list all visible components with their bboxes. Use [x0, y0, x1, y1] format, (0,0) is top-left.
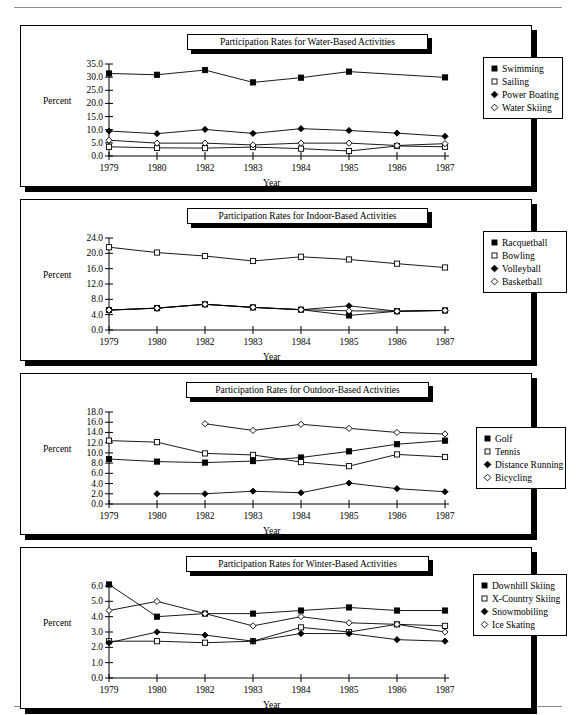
y-tick-label: 24.0: [63, 233, 103, 243]
chart-panel-winter[interactable]: Participation Rates for Winter-Based Act…: [20, 547, 532, 709]
data-point-bicycling: [394, 429, 400, 435]
data-point-x-country-skiing: [442, 623, 447, 628]
data-point-bowling: [250, 258, 255, 263]
data-point-distance-running: [298, 490, 304, 496]
x-tick-label: 1980: [139, 163, 175, 173]
data-point-ice-skating: [298, 614, 304, 620]
y-tick-label: 15.0: [63, 112, 103, 122]
x-tick-label: 1980: [139, 685, 175, 695]
data-point-downhill-skiing: [154, 614, 159, 619]
x-tick-label: 1979: [91, 337, 127, 347]
data-point-tennis: [298, 459, 303, 464]
x-tick-label: 1983: [235, 163, 271, 173]
x-tick-label: 1987: [427, 685, 463, 695]
data-point-distance-running: [394, 486, 400, 492]
data-point-power-boating: [250, 130, 256, 136]
x-tick-label: 1979: [91, 685, 127, 695]
y-tick-label: 4.0: [63, 310, 103, 320]
y-tick-label: 20.0: [63, 248, 103, 258]
x-tick-label: 1982: [187, 685, 223, 695]
data-point-tennis: [394, 452, 399, 457]
x-tick-label: 1986: [379, 163, 415, 173]
data-point-snowmobiling: [154, 629, 160, 635]
y-tick-label: 0.0: [63, 151, 103, 161]
y-axis-title: Percent: [43, 96, 72, 106]
x-axis-title: Year: [263, 352, 281, 362]
y-tick-label: 18.0: [63, 407, 103, 417]
data-point-swimming: [298, 75, 303, 80]
data-point-power-boating: [442, 133, 448, 139]
data-point-downhill-skiing: [442, 608, 447, 613]
chart-panel-outdoor[interactable]: Participation Rates for Outdoor-Based Ac…: [20, 373, 532, 535]
data-point-bicycling: [250, 427, 256, 433]
data-point-bicycling: [442, 431, 448, 437]
data-point-snowmobiling: [202, 632, 208, 638]
data-point-power-boating: [394, 130, 400, 136]
data-point-distance-running: [250, 488, 256, 494]
data-point-sailing: [346, 148, 351, 153]
x-tick-label: 1984: [283, 685, 319, 695]
data-point-tennis: [442, 454, 447, 459]
data-point-golf: [250, 458, 255, 463]
data-point-distance-running: [202, 491, 208, 497]
data-point-snowmobiling: [442, 638, 448, 644]
x-tick-label: 1987: [427, 163, 463, 173]
data-point-snowmobiling: [394, 637, 400, 643]
data-point-bowling: [106, 245, 111, 250]
data-point-bicycling: [346, 425, 352, 431]
data-point-tennis: [202, 451, 207, 456]
y-tick-label: 4.0: [63, 479, 103, 489]
x-axis-title: Year: [263, 700, 281, 710]
x-tick-label: 1987: [427, 511, 463, 521]
data-point-x-country-skiing: [202, 640, 207, 645]
y-tick-label: 8.0: [63, 294, 103, 304]
data-point-golf: [154, 459, 159, 464]
x-axis-title: Year: [263, 526, 281, 536]
y-axis-title: Percent: [43, 270, 72, 280]
chart-panel-water[interactable]: Participation Rates for Water-Based Acti…: [20, 25, 532, 187]
x-tick-label: 1986: [379, 511, 415, 521]
y-tick-label: 0.0: [63, 673, 103, 683]
x-tick-label: 1982: [187, 337, 223, 347]
y-tick-label: 14.0: [63, 427, 103, 437]
data-point-distance-running: [154, 491, 160, 497]
data-point-golf: [106, 456, 111, 461]
y-tick-label: 3.0: [63, 627, 103, 637]
data-point-swimming: [442, 75, 447, 80]
chart-panel-indoor[interactable]: Participation Rates for Indoor-Based Act…: [20, 199, 532, 361]
x-tick-label: 1985: [331, 163, 367, 173]
x-tick-label: 1982: [187, 163, 223, 173]
data-point-ice-skating: [250, 623, 256, 629]
data-point-bowling: [346, 257, 351, 262]
data-point-bowling: [394, 261, 399, 266]
y-tick-label: 25.0: [63, 85, 103, 95]
x-tick-label: 1986: [379, 685, 415, 695]
data-point-bowling: [298, 254, 303, 259]
y-tick-label: 0.0: [63, 325, 103, 335]
data-point-power-boating: [346, 127, 352, 133]
data-point-x-country-skiing: [298, 625, 303, 630]
data-point-power-boating: [106, 128, 112, 134]
y-tick-label: 8.0: [63, 458, 103, 468]
data-point-tennis: [346, 464, 351, 469]
data-point-bowling: [154, 250, 159, 255]
data-point-tennis: [106, 438, 111, 443]
data-point-ice-skating: [154, 598, 160, 604]
y-tick-label: 16.0: [63, 417, 103, 427]
data-point-downhill-skiing: [394, 608, 399, 613]
y-axis-title: Percent: [43, 444, 72, 454]
y-tick-label: 6.0: [63, 468, 103, 478]
data-point-bowling: [442, 265, 447, 270]
data-point-downhill-skiing: [298, 608, 303, 613]
x-tick-label: 1984: [283, 163, 319, 173]
y-tick-label: 5.0: [63, 596, 103, 606]
data-point-golf: [202, 460, 207, 465]
data-point-swimming: [154, 72, 159, 77]
data-point-snowmobiling: [298, 630, 304, 636]
data-point-x-country-skiing: [154, 639, 159, 644]
data-point-golf: [442, 438, 447, 443]
x-tick-label: 1983: [235, 685, 271, 695]
data-point-water-skiing: [346, 140, 352, 146]
x-tick-label: 1986: [379, 337, 415, 347]
x-axis-title: Year: [263, 178, 281, 188]
